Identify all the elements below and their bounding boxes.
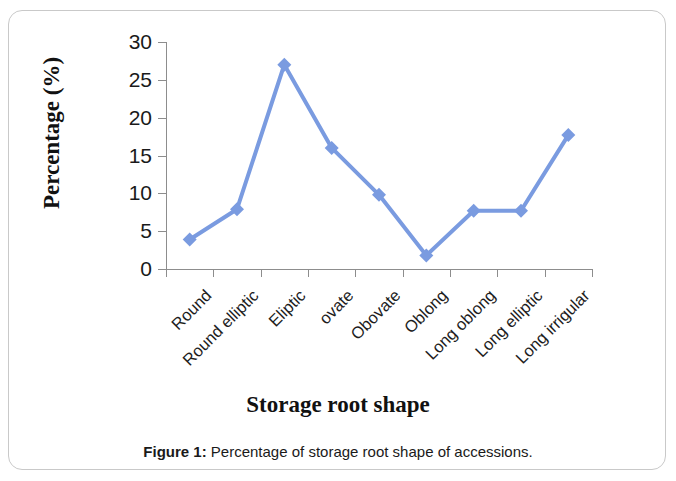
x-tick-mark: [355, 269, 356, 277]
figure-container: Percentage (%) 051015202530 RoundRound e…: [0, 0, 676, 481]
x-axis-line: [166, 269, 592, 270]
x-tick-label: ovate: [315, 286, 357, 328]
data-point-marker: [277, 58, 291, 72]
series-line: [190, 65, 569, 256]
figure-caption-label: Figure 1:: [143, 443, 206, 460]
x-tick-mark: [450, 269, 451, 277]
figure-caption: Figure 1: Percentage of storage root sha…: [0, 443, 676, 460]
data-point-marker: [467, 204, 481, 218]
y-axis-title: Percentage (%): [39, 23, 65, 243]
y-tick-label: 15: [108, 145, 152, 166]
y-tick-mark: [158, 193, 166, 194]
chart-plot-area: Percentage (%) 051015202530 RoundRound e…: [0, 0, 676, 481]
y-tick-label: 30: [108, 31, 152, 52]
y-tick-mark: [158, 80, 166, 81]
y-tick-mark: [158, 269, 166, 270]
y-tick-label: 20: [108, 107, 152, 128]
x-tick-mark: [213, 269, 214, 277]
y-tick-label: 25: [108, 69, 152, 90]
x-axis-title: Storage root shape: [0, 392, 676, 418]
y-tick-mark: [158, 118, 166, 119]
y-axis-line: [166, 42, 167, 270]
data-point-marker: [230, 202, 244, 216]
x-tick-mark: [166, 269, 167, 277]
y-tick-label: 10: [108, 182, 152, 203]
x-tick-mark: [545, 269, 546, 277]
series-markers: [183, 58, 576, 263]
y-tick-mark: [158, 42, 166, 43]
x-tick-mark: [308, 269, 309, 277]
y-tick-label: 0: [108, 258, 152, 279]
data-point-marker: [419, 248, 433, 262]
figure-caption-text: Percentage of storage root shape of acce…: [207, 443, 533, 460]
y-tick-mark: [158, 156, 166, 157]
x-tick-mark: [592, 269, 593, 277]
data-point-marker: [325, 141, 339, 155]
data-point-marker: [183, 232, 197, 246]
x-tick-label: Eliptic: [265, 286, 310, 331]
x-tick-mark: [261, 269, 262, 277]
x-tick-mark: [403, 269, 404, 277]
data-point-marker: [372, 188, 386, 202]
x-tick-mark: [497, 269, 498, 277]
x-tick-label: Obovate: [347, 286, 405, 344]
data-point-marker: [514, 204, 528, 218]
y-tick-mark: [158, 231, 166, 232]
data-point-marker: [561, 128, 575, 142]
y-tick-label: 5: [108, 220, 152, 241]
